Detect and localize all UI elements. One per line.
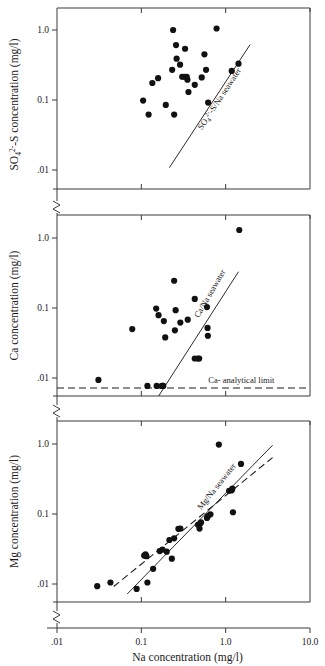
data-point: [177, 62, 183, 68]
x-axis-label: Na concentration (mg/l): [132, 651, 243, 664]
data-point: [94, 583, 100, 589]
reference-line-dashed: [114, 458, 273, 587]
data-point: [172, 327, 178, 333]
data-point: [198, 519, 204, 525]
data-point: [213, 25, 219, 31]
data-point: [164, 549, 170, 555]
panel-ca-vs-na: 1.00.1.01: [37, 215, 310, 421]
data-point: [199, 74, 205, 80]
panel-frame: [57, 8, 310, 189]
data-point: [155, 75, 161, 81]
data-point: [95, 377, 101, 383]
y-tick-label: 1.0: [37, 25, 49, 35]
y-axis-label-ca: Ca concentration (mg/l): [8, 250, 21, 360]
data-point: [236, 227, 242, 233]
data-point: [184, 77, 190, 83]
data-point: [203, 67, 209, 73]
data-point: [192, 296, 198, 302]
figure-container: 1.00.1.011.00.1.011.00.1.01SO42--S/Na se…: [0, 0, 325, 666]
y-tick-label: 0.1: [37, 95, 49, 105]
y-tick-label: .01: [37, 373, 49, 383]
panel-mg-vs-na: 1.00.1.01: [37, 421, 310, 628]
x-axis-tick-label: 10.0: [302, 637, 319, 647]
data-point: [196, 355, 202, 361]
data-point: [169, 67, 175, 73]
data-point: [238, 461, 244, 467]
x-axis-tick-label: .01: [51, 637, 63, 647]
data-point: [185, 317, 191, 323]
y-tick-label: 1.0: [37, 233, 49, 243]
data-point: [171, 111, 177, 117]
panel-content: [57, 227, 310, 396]
data-point: [146, 111, 152, 117]
y-tick-label: 0.1: [37, 303, 49, 313]
ca-na-seawater-label: Ca/Na seawater: [192, 267, 228, 319]
y-axis-label-so4: SO42--S concentration (mg/l): [8, 38, 24, 170]
axis-break-mark: [53, 611, 60, 623]
panel-content: [94, 442, 272, 594]
data-point: [192, 82, 198, 88]
y-tick-label: .01: [37, 165, 49, 175]
data-point: [174, 56, 180, 62]
figure-svg: 1.00.1.011.00.1.011.00.1.01SO42--S/Na se…: [0, 0, 325, 666]
y-tick-label: 0.1: [37, 509, 49, 519]
panel-content: [140, 25, 250, 167]
data-point: [173, 42, 179, 48]
data-point: [155, 312, 161, 318]
data-point: [229, 486, 235, 492]
x-axis-tick-label: 0.1: [135, 637, 147, 647]
data-point: [177, 525, 183, 531]
y-axis-label-mg: Mg concentration (mg/l): [8, 455, 21, 568]
data-point: [134, 586, 140, 592]
data-point: [185, 89, 191, 95]
data-point: [129, 326, 135, 332]
y-tick-label: .01: [37, 579, 49, 589]
ca-analytical-limit-label: Ca- analytical limit: [208, 375, 275, 385]
panel-frame: [57, 421, 310, 602]
axis-break-mark: [53, 405, 60, 417]
data-point: [230, 509, 236, 515]
panel-frame: [57, 215, 310, 396]
data-point: [144, 383, 150, 389]
data-point: [173, 307, 179, 313]
data-point: [143, 553, 149, 559]
data-point: [150, 566, 156, 572]
data-point: [149, 80, 155, 86]
data-point: [162, 334, 168, 340]
data-point: [144, 579, 150, 585]
data-point: [235, 61, 241, 67]
data-point: [205, 333, 211, 339]
panel-so4-vs-na: 1.00.1.01: [37, 8, 310, 215]
data-point: [161, 318, 167, 324]
axis-break-mark: [53, 201, 60, 213]
data-point: [216, 442, 222, 448]
x-axis-tick-label: 1.0: [220, 637, 232, 647]
data-point: [160, 383, 166, 389]
data-point: [171, 278, 177, 284]
data-point: [163, 102, 169, 108]
data-point: [207, 511, 213, 517]
data-point: [170, 27, 176, 33]
data-point: [204, 325, 210, 331]
data-point: [169, 556, 175, 562]
data-point: [140, 98, 146, 104]
data-point: [153, 306, 159, 312]
data-point: [171, 535, 177, 541]
data-point: [177, 319, 183, 325]
data-point: [182, 46, 188, 52]
data-point: [201, 51, 207, 57]
y-tick-label: 1.0: [37, 439, 49, 449]
data-point: [107, 579, 113, 585]
